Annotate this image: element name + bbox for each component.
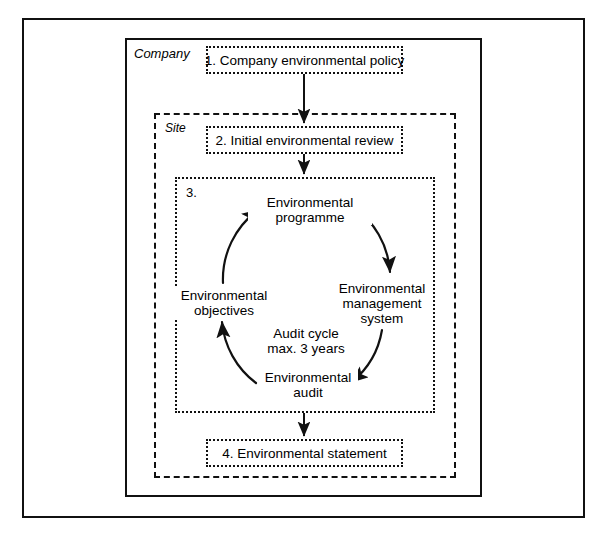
step-box-label: 4. Environmental statement bbox=[222, 446, 386, 461]
step-box-initial-environmental-review: 2. Initial environmental review bbox=[206, 126, 403, 154]
cycle-center-note: Audit cycle max. 3 years bbox=[256, 326, 356, 356]
company-frame-label: Company bbox=[134, 46, 190, 61]
step-box-environmental-statement: 4. Environmental statement bbox=[206, 439, 403, 467]
cycle-node-line2: objectives bbox=[172, 303, 276, 318]
step-box-company-environmental-policy: 1. Company environmental policy bbox=[206, 46, 403, 74]
cycle-node-line2: audit bbox=[258, 385, 358, 400]
cycle-node-environmental-management-system: Environmental management system bbox=[336, 281, 428, 326]
cycle-center-note-line1: Audit cycle bbox=[256, 326, 356, 341]
cycle-node-line2: programme bbox=[248, 210, 372, 225]
cycle-node-line1: Environmental bbox=[172, 288, 276, 303]
cycle-node-line1: Environmental bbox=[336, 281, 428, 296]
cycle-node-environmental-objectives: Environmental objectives bbox=[172, 288, 276, 318]
cycle-center-note-line2: max. 3 years bbox=[256, 341, 356, 356]
cycle-node-environmental-programme: Environmental programme bbox=[248, 195, 372, 225]
cycle-frame-label: 3. bbox=[186, 185, 197, 200]
cycle-node-line1: Environmental bbox=[248, 195, 372, 210]
cycle-node-line3: system bbox=[336, 311, 428, 326]
site-frame-label: Site bbox=[165, 121, 186, 135]
step-box-label: 1. Company environmental policy bbox=[205, 53, 405, 68]
cycle-node-line2: management bbox=[336, 296, 428, 311]
step-box-label: 2. Initial environmental review bbox=[216, 133, 394, 148]
diagram-canvas: Company Site 3. 1. Company environmental… bbox=[0, 0, 605, 534]
cycle-node-line1: Environmental bbox=[258, 370, 358, 385]
cycle-node-environmental-audit: Environmental audit bbox=[258, 370, 358, 400]
